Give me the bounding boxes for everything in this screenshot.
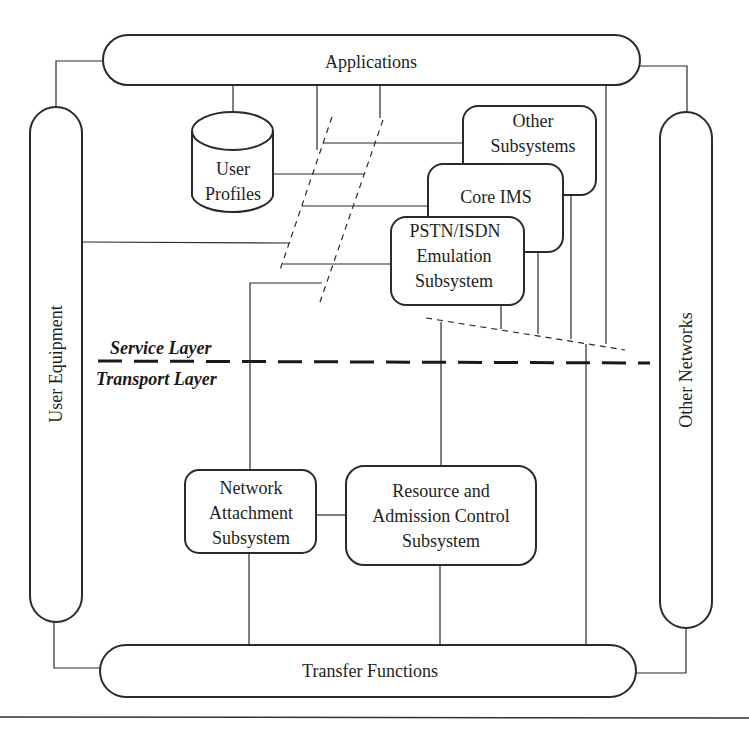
other-subsystems-line-1: Other <box>513 111 554 131</box>
connector-on-tf <box>636 628 686 673</box>
layer-boundary-line <box>98 361 650 363</box>
user-profiles-line-2: Profiles <box>205 184 261 204</box>
network-attachment-line-1: Network <box>220 478 283 498</box>
dashed-bus-lower <box>426 318 625 350</box>
racs-line-3: Subsystem <box>402 531 480 551</box>
architecture-diagram: Service Layer Transport Layer Applicatio… <box>0 0 749 729</box>
link-bus-nass <box>250 283 322 470</box>
core-ims-label: Core IMS <box>460 187 532 207</box>
transport-layer-label: Transport Layer <box>96 369 218 389</box>
other-subsystems-line-2: Subsystems <box>490 136 575 156</box>
applications-node[interactable]: Applications <box>103 35 640 85</box>
racs-line-2: Admission Control <box>372 506 510 526</box>
service-layer-label: Service Layer <box>110 338 212 358</box>
dashed-bus-right <box>320 120 383 302</box>
page-bottom-rule <box>0 717 749 718</box>
other-networks-node[interactable]: Other Networks <box>660 112 712 628</box>
user-profiles-line-1: User <box>216 159 250 179</box>
pstn-isdn-line-1: PSTN/ISDN <box>409 221 500 241</box>
applications-label: Applications <box>325 52 417 72</box>
user-profiles-top <box>192 112 273 150</box>
dashed-bus-left <box>279 117 332 273</box>
network-attachment-line-2: Attachment <box>209 503 293 523</box>
transfer-functions-node[interactable]: Transfer Functions <box>100 645 636 697</box>
user-equipment-node[interactable]: User Equipment <box>30 107 82 622</box>
connector-apps-on <box>640 66 687 112</box>
connector-apps-ue <box>56 61 103 107</box>
transfer-functions-label: Transfer Functions <box>302 661 438 681</box>
link-user-equipment <box>82 242 289 243</box>
user-profiles-node[interactable]: User Profiles <box>192 112 273 212</box>
user-equipment-label: User Equipment <box>46 305 66 422</box>
racs-line-1: Resource and <box>392 481 489 501</box>
network-attachment-line-3: Subsystem <box>212 528 290 548</box>
network-attachment-node[interactable]: Network Attachment Subsystem <box>185 470 316 553</box>
connector-ue-tf <box>54 622 100 668</box>
pstn-isdn-node[interactable]: PSTN/ISDN Emulation Subsystem <box>391 217 524 305</box>
racs-node[interactable]: Resource and Admission Control Subsystem <box>346 466 536 565</box>
pstn-isdn-line-3: Subsystem <box>415 271 493 291</box>
other-networks-label: Other Networks <box>676 312 696 427</box>
pstn-isdn-line-2: Emulation <box>417 246 492 266</box>
